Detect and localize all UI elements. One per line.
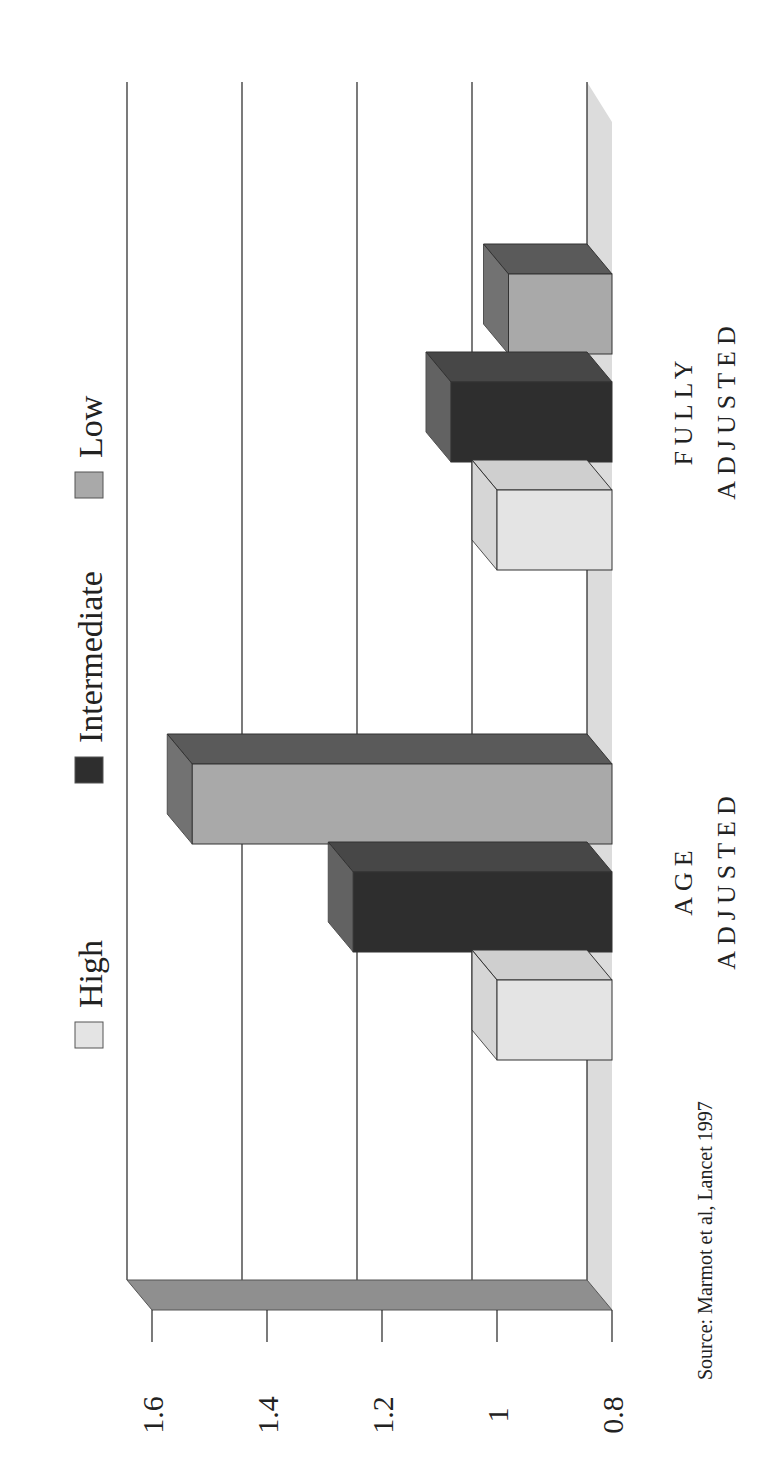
bar-intermediate (451, 382, 612, 462)
source-note: Source: Marmot et al, Lancet 1997 (694, 1101, 716, 1380)
chart: 0.811.21.41.6 HighIntermediateLow AGEADJ… (0, 0, 766, 1467)
axis-tick-label: 1 (481, 1408, 514, 1423)
value-axis: 0.811.21.41.6 (136, 1310, 629, 1434)
bars (167, 244, 612, 1060)
category-label: AGE (669, 844, 698, 915)
axis-tick-label: 0.8 (596, 1396, 629, 1434)
bar-intermediate (353, 872, 612, 952)
bar-low (192, 764, 612, 844)
legend-label-intermediate: Intermediate (72, 571, 109, 743)
category-label: FULLY (669, 354, 698, 465)
legend-swatch-high (75, 1022, 103, 1048)
bar-top-face (426, 352, 612, 382)
legend: HighIntermediateLow (72, 395, 109, 1048)
axis-tick-label: 1.6 (136, 1396, 169, 1434)
bar-high (497, 490, 612, 570)
axis-tick-label: 1.4 (251, 1396, 284, 1434)
legend-label-high: High (72, 940, 109, 1008)
side-wall (127, 1280, 612, 1310)
legend-swatch-low (75, 472, 103, 498)
bar-top-face (328, 842, 612, 872)
bar-low (509, 274, 613, 354)
bar-top-face (167, 734, 612, 764)
category-labels: AGEADJUSTEDFULLYADJUSTED (669, 320, 741, 969)
category-label: ADJUSTED (712, 790, 741, 969)
legend-swatch-intermediate (75, 757, 103, 783)
axis-tick-label: 1.2 (366, 1396, 399, 1434)
chart-side-wall (127, 1280, 612, 1310)
legend-label-low: Low (72, 395, 109, 458)
bar-high (497, 980, 612, 1060)
category-label: ADJUSTED (712, 320, 741, 499)
